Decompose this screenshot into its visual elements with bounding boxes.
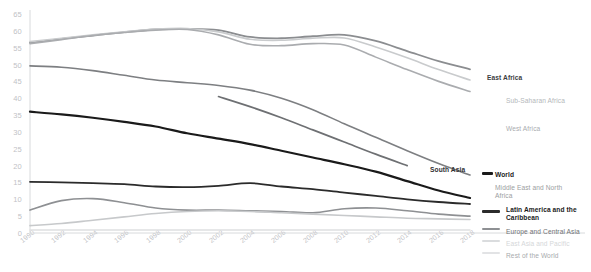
series-label: Latin America and the <box>506 206 577 214</box>
series-label: Africa <box>495 192 512 200</box>
series-line-europe-and-central-asia <box>30 199 470 217</box>
series-line-middle-east-and-north-africa <box>30 66 470 175</box>
series-line-latin-america-and-the-caribbean <box>30 182 470 204</box>
series-line-world <box>30 112 470 198</box>
series-label: Sub-Saharan Africa <box>506 97 565 105</box>
plot-area <box>0 0 591 272</box>
series-label: West Africa <box>506 125 540 133</box>
series-line-east-asia-and-pacific <box>30 211 470 226</box>
series-label: Middle East and North <box>495 184 562 192</box>
series-label: South Asia <box>430 166 465 174</box>
series-label: East Africa <box>487 74 522 82</box>
series-label: East Asia and Pacific <box>506 240 570 248</box>
legend-marker-world <box>482 172 493 175</box>
legend-marker-east-asia-pacific <box>482 240 500 242</box>
series-label: Caribbean <box>506 214 539 222</box>
series-line-south-asia <box>219 97 408 166</box>
legend-marker-latin-america <box>482 210 500 213</box>
legend-marker-rest-of-world <box>482 252 500 254</box>
series-label: World <box>495 171 514 179</box>
series-label: Rest of the World <box>506 252 559 260</box>
line-chart: 65605550454035302520151050 1990199219941… <box>0 0 591 272</box>
series-label: Europe and Central Asia <box>506 228 580 236</box>
